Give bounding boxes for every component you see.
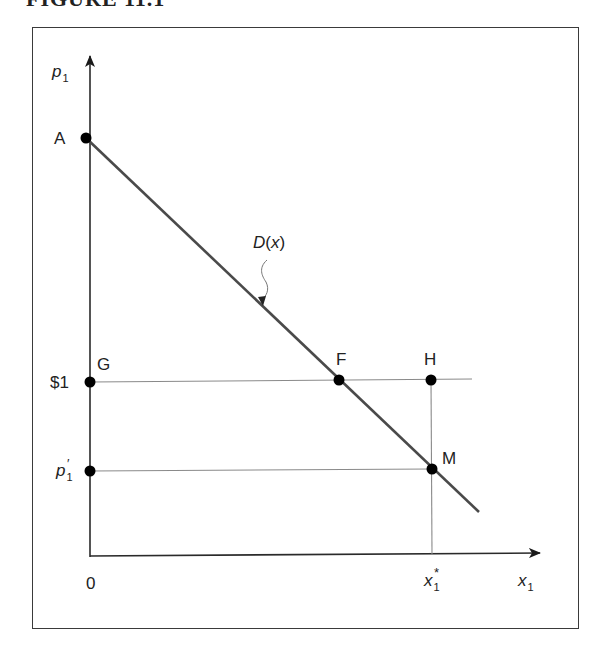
point-label-m: M: [442, 450, 456, 467]
p1-prime-subscript: 1: [66, 471, 72, 483]
demand-curve-label: D(x): [253, 234, 285, 251]
tick-label-p1-prime: p′1: [56, 462, 73, 479]
point-label-h: H: [424, 351, 436, 368]
point-h: [426, 375, 437, 386]
demand-curve: [86, 138, 479, 512]
origin-label: 0: [86, 575, 95, 592]
x1-star-base: x: [424, 571, 433, 590]
y-axis-label-base: p: [52, 62, 61, 81]
x-axis: [90, 553, 540, 556]
p1-prime-base: p: [56, 461, 65, 480]
point-m: [427, 464, 438, 475]
tick-label-one-dollar: $1: [50, 374, 69, 391]
y-axis-label-subscript: 1: [62, 72, 68, 84]
x1-star-subscript: 1: [434, 581, 440, 593]
point-label-a: A: [54, 130, 65, 147]
demand-diagram: [0, 0, 603, 649]
demand-label-pointer: [262, 260, 268, 300]
point-label-g: G: [97, 356, 110, 373]
point-f: [334, 375, 345, 386]
x1-star-mark: *: [434, 566, 439, 579]
x-axis-label-base: x: [518, 571, 527, 590]
demand-label-close-paren: ): [279, 233, 285, 252]
y-axis-label: p1: [52, 63, 69, 80]
point-g: [85, 377, 96, 388]
point-p1-prime: [85, 466, 96, 477]
price-p1-prime-guide: [90, 469, 432, 471]
x-axis-label: x1: [518, 572, 534, 589]
demand-label-d: D: [253, 233, 265, 252]
point-label-f: F: [336, 351, 346, 368]
p1-prime-mark: ′: [67, 457, 69, 470]
point-a: [81, 133, 92, 144]
tick-label-x1-star: x*1: [424, 572, 440, 589]
price-one-dollar-guide: [90, 379, 472, 382]
x-axis-label-subscript: 1: [528, 581, 534, 593]
